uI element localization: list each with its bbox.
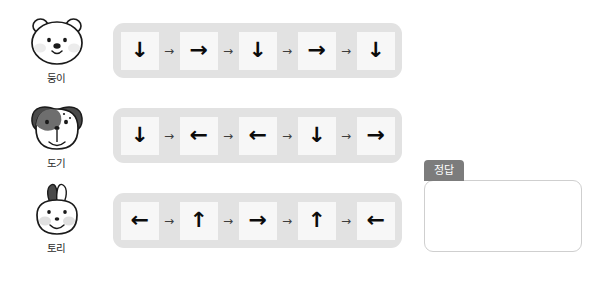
answer-area: 정답 <box>424 160 584 255</box>
connector-arrow: → <box>336 45 357 57</box>
arrow-glyph: → <box>307 40 325 61</box>
connector-arrow: → <box>159 45 180 57</box>
connector-arrow: → <box>159 130 180 142</box>
connector-arrow: → <box>277 215 298 227</box>
rabbit-face-icon <box>26 183 88 241</box>
connector-glyph: → <box>341 45 351 57</box>
arrow-glyph: ↓ <box>366 40 384 61</box>
answer-input-box[interactable] <box>424 180 582 252</box>
character-dog: 도기 <box>0 93 113 178</box>
arrow-cell[interactable]: ↓ <box>357 32 395 70</box>
connector-glyph: → <box>223 215 233 227</box>
arrow-cell[interactable]: → <box>357 117 395 155</box>
arrow-glyph: ← <box>130 210 148 231</box>
arrow-glyph: → <box>248 210 266 231</box>
connector-glyph: → <box>164 215 174 227</box>
arrow-glyph: ↓ <box>130 40 148 61</box>
arrow-sequence-pill: ↓ → → → ↓ → → → ↓ <box>113 23 402 78</box>
arrow-cell[interactable]: ← <box>239 117 277 155</box>
arrow-cell[interactable]: ↓ <box>121 117 159 155</box>
connector-arrow: → <box>277 130 298 142</box>
connector-glyph: → <box>164 45 174 57</box>
arrow-cell[interactable]: ↑ <box>180 202 218 240</box>
character-name: 둥이 <box>47 72 67 84</box>
arrow-cell[interactable]: → <box>239 202 277 240</box>
arrow-glyph: → <box>366 125 384 146</box>
arrow-glyph: ← <box>189 125 207 146</box>
connector-arrow: → <box>277 45 298 57</box>
dog-face-icon <box>26 98 88 156</box>
connector-arrow: → <box>336 215 357 227</box>
connector-arrow: → <box>218 45 239 57</box>
connector-glyph: → <box>223 45 233 57</box>
arrow-cell[interactable]: → <box>298 32 336 70</box>
bear-face-icon <box>26 13 88 71</box>
arrow-glyph: ↑ <box>307 210 325 231</box>
connector-arrow: → <box>159 215 180 227</box>
arrow-glyph: ← <box>366 210 384 231</box>
worksheet: 둥이 ↓ → → → ↓ → → → <box>0 0 595 285</box>
arrow-cell[interactable]: ← <box>180 117 218 155</box>
connector-arrow: → <box>218 130 239 142</box>
connector-glyph: → <box>341 215 351 227</box>
arrow-cell[interactable]: ↓ <box>298 117 336 155</box>
sequence-row: 둥이 ↓ → → → ↓ → → → <box>0 8 595 93</box>
connector-glyph: → <box>282 215 292 227</box>
character-rabbit: 토리 <box>0 178 113 263</box>
arrow-sequence-pill: ← → ↑ → → → ↑ → ← <box>113 193 402 248</box>
connector-arrow: → <box>336 130 357 142</box>
arrow-glyph: ↓ <box>248 40 266 61</box>
connector-glyph: → <box>282 45 292 57</box>
arrow-cell[interactable]: ↓ <box>121 32 159 70</box>
arrow-cell[interactable]: ← <box>121 202 159 240</box>
character-name: 토리 <box>47 242 67 254</box>
arrow-glyph: ↓ <box>307 125 325 146</box>
character-name: 도기 <box>47 157 67 169</box>
connector-glyph: → <box>164 130 174 142</box>
answer-tab-label: 정답 <box>424 160 464 181</box>
connector-arrow: → <box>218 215 239 227</box>
arrow-cell[interactable]: ↑ <box>298 202 336 240</box>
arrow-glyph: ← <box>248 125 266 146</box>
arrow-glyph: ↑ <box>189 210 207 231</box>
character-bear: 둥이 <box>0 8 113 93</box>
arrow-cell[interactable]: ← <box>357 202 395 240</box>
connector-glyph: → <box>341 130 351 142</box>
arrow-cell[interactable]: → <box>180 32 218 70</box>
arrow-cell[interactable]: ↓ <box>239 32 277 70</box>
connector-glyph: → <box>223 130 233 142</box>
arrow-glyph: ↓ <box>130 125 148 146</box>
connector-glyph: → <box>282 130 292 142</box>
arrow-sequence-pill: ↓ → ← → ← → ↓ → → <box>113 108 402 163</box>
arrow-glyph: → <box>189 40 207 61</box>
